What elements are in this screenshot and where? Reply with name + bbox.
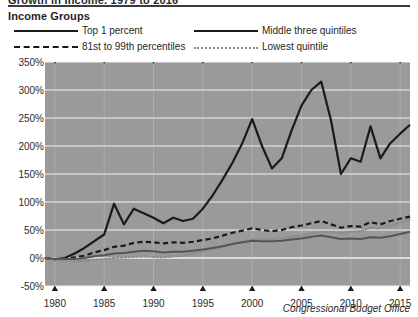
y-axis-tick-label: -50%	[21, 281, 44, 292]
x-axis-tick-label: 1995	[192, 298, 214, 309]
legend-item-lowest-quintile: Lowest quintile	[194, 42, 328, 52]
y-axis-tick-label: 0%	[30, 253, 44, 264]
x-axis-tick-label: 2005	[290, 298, 312, 309]
chart-plot-area	[0, 62, 418, 294]
y-axis-tick-label: 150%	[18, 169, 44, 180]
legend-item-label: Lowest quintile	[262, 42, 328, 52]
legend-item-label: Top 1 percent	[82, 26, 143, 36]
chart-page: Growth in Income, 1979 to 2016 Income Gr…	[0, 0, 418, 317]
x-axis-tick-label: 1985	[93, 298, 115, 309]
legend-line-swatch-solid-icon	[14, 26, 78, 36]
x-axis-tick-label: 2010	[340, 298, 362, 309]
legend-item-top-1-percent: Top 1 percent	[14, 26, 143, 36]
title-divider	[8, 5, 410, 7]
x-axis-tick-label: 1990	[142, 298, 164, 309]
page-title: Growth in Income, 1979 to 2016	[8, 0, 248, 4]
x-axis-tick-label: 1980	[44, 298, 66, 309]
legend-item-81st-to-99th-percentiles: 81st to 99th percentiles	[14, 42, 185, 52]
x-axis-tick-label: 2015	[389, 298, 411, 309]
legend-line-swatch-dashed-icon	[14, 42, 78, 52]
y-axis-tick-label: 100%	[18, 197, 44, 208]
x-axis-tick-label: 2000	[241, 298, 263, 309]
y-axis-tick-label: 200%	[18, 141, 44, 152]
y-axis-tick-label: 50%	[24, 225, 44, 236]
legend-heading: Income Groups	[8, 10, 90, 22]
legend-item-label: Middle three quintiles	[262, 26, 357, 36]
legend-line-swatch-dotted-icon	[194, 42, 258, 52]
legend-item-middle-three-quintiles: Middle three quintiles	[194, 26, 357, 36]
y-axis-tick-label: 300%	[18, 85, 44, 96]
legend-item-label: 81st to 99th percentiles	[82, 42, 185, 52]
y-axis-tick-label: 250%	[18, 113, 44, 124]
legend-line-swatch-solid-icon	[194, 26, 258, 36]
line-chart-svg	[0, 62, 418, 294]
y-axis-tick-label: 350%	[18, 57, 44, 68]
